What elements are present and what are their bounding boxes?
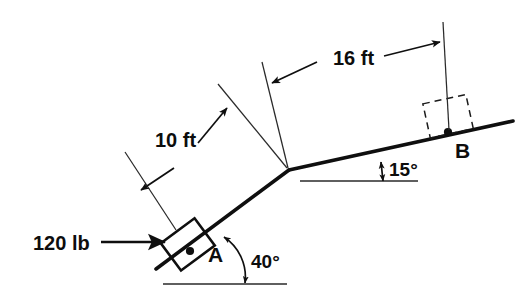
dim-arrow-10ft-left bbox=[141, 168, 174, 190]
point-label-a: A bbox=[208, 243, 223, 266]
angle-arc-40deg bbox=[224, 237, 245, 283]
statics-diagram: 120 lb 10 ft 16 ft A B 40° 15° bbox=[0, 0, 528, 295]
extension-line-b bbox=[443, 22, 449, 130]
extension-line-junction-left bbox=[218, 84, 287, 168]
dim-arrow-16ft-right bbox=[384, 42, 440, 56]
point-label-b: B bbox=[455, 139, 470, 162]
angle-label-40deg: 40° bbox=[251, 251, 280, 272]
figure-canvas: 120 lb 10 ft 16 ft A B 40° 15° bbox=[0, 0, 528, 295]
extension-line-a bbox=[125, 152, 176, 230]
angle-arc-15deg bbox=[381, 162, 383, 181]
dim-label-10ft: 10 ft bbox=[155, 129, 196, 151]
point-b-marker bbox=[444, 128, 452, 136]
dim-label-16ft: 16 ft bbox=[333, 47, 374, 69]
angle-label-15deg: 15° bbox=[389, 159, 418, 180]
dim-arrow-16ft-left bbox=[272, 62, 317, 83]
point-a-marker bbox=[186, 247, 194, 255]
force-label: 120 lb bbox=[33, 232, 90, 254]
dim-arrow-10ft-right bbox=[198, 108, 227, 143]
